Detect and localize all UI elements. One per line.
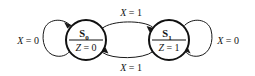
- state-node-s0-name-subscript: 0: [85, 34, 89, 42]
- state-node-s0-output: Z = 0: [75, 42, 96, 53]
- transition-s0-to-s1: [102, 22, 154, 32]
- state-node-s1[interactable]: S1 Z = 1: [149, 20, 189, 60]
- state-diagram-figure: S0 Z = 0 S1 Z = 1 X = 0 X = 1 X = 1: [0, 0, 255, 76]
- state-node-s0-output-value: 0: [92, 42, 97, 53]
- transition-label-s0-self: X = 0: [16, 35, 39, 46]
- state-node-s1-output-value: 1: [175, 42, 180, 53]
- transition-s1-to-s0-path: [103, 52, 154, 58]
- transition-label-s1-self: X = 0: [216, 35, 239, 46]
- transition-s0-to-s1-path: [102, 22, 153, 29]
- state-diagram-canvas: S0 Z = 0 S1 Z = 1 X = 0 X = 1 X = 1: [0, 0, 255, 76]
- transition-label-s1-self-value: 0: [234, 35, 239, 46]
- transition-label-s1-to-s0-value: 1: [137, 62, 142, 73]
- state-node-s1-output: Z = 1: [158, 42, 179, 53]
- transition-label-s0-to-s1-value: 1: [137, 7, 142, 18]
- state-node-s1-name-subscript: 1: [168, 34, 172, 42]
- state-node-s0[interactable]: S0 Z = 0: [66, 20, 106, 60]
- transition-label-s1-to-s0: X = 1: [119, 62, 142, 73]
- transition-s1-to-s0: [101, 47, 153, 57]
- transition-label-s0-self-value: 0: [34, 35, 39, 46]
- transition-label-s0-to-s1: X = 1: [119, 7, 142, 18]
